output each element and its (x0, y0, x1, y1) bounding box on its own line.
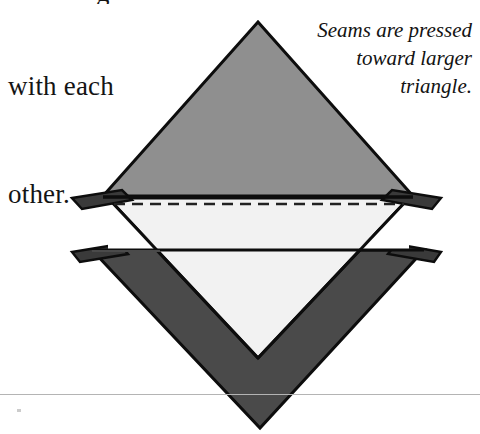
pressed-seam-triangle-diagram (0, 0, 480, 434)
scan-artifact-speck (17, 409, 21, 412)
bottom-triangle-left-wing (92, 250, 160, 252)
diagram-page: g with each other. Seams are pressed tow… (0, 0, 480, 434)
top-large-triangle (103, 22, 413, 196)
figure-bottom-rule (0, 394, 480, 395)
